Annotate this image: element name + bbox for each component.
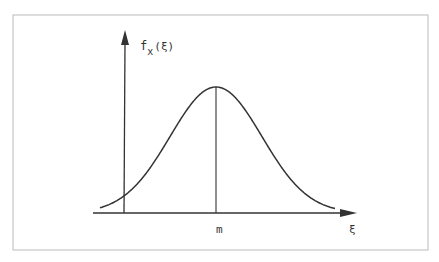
x-axis-arrow-icon (340, 209, 357, 217)
figure-frame (13, 15, 428, 250)
x-axis-label: ξ (349, 223, 356, 236)
y-axis-arrow-icon (121, 30, 129, 45)
density-curve (100, 87, 335, 209)
y-axis (124, 42, 125, 213)
y-axis-label: fx(ξ) (140, 39, 174, 57)
gaussian-diagram: fx(ξ) m ξ (0, 0, 439, 262)
mean-label: m (216, 223, 223, 236)
